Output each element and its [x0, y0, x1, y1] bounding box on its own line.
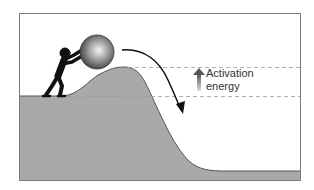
label-line-1: Activation	[206, 67, 254, 80]
activation-energy-label: Activation energy	[206, 67, 254, 93]
boulder	[80, 35, 114, 69]
activation-energy-diagram	[0, 0, 314, 190]
label-line-2: energy	[206, 80, 254, 93]
